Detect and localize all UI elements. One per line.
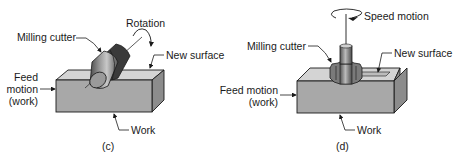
panel-c-new-surface-label: New surface bbox=[166, 49, 224, 61]
panel-d-feed-label-line2: (work) bbox=[240, 96, 278, 108]
panel-c-feed-label-line3: (work) bbox=[4, 95, 38, 107]
panel-c-work-label: Work bbox=[131, 124, 155, 136]
milling-diagram: Milling cutter Rotation New surface Feed… bbox=[0, 0, 458, 161]
panel-d-caption: (d) bbox=[336, 140, 349, 152]
panel-d-milling-cutter-label: Milling cutter bbox=[247, 40, 306, 52]
panel-c-milling-cutter-label: Milling cutter bbox=[17, 31, 76, 43]
panel-d-cutter bbox=[330, 14, 362, 84]
diagram-artwork bbox=[0, 0, 458, 161]
panel-d-speed-motion-label: Speed motion bbox=[364, 10, 429, 22]
panel-c-feed-label-line1: Feed bbox=[8, 71, 38, 83]
panel-d-feed-label-line1: Feed motion bbox=[218, 84, 278, 96]
panel-c-rotation-label: Rotation bbox=[126, 17, 165, 29]
panel-d-new-surface-label: New surface bbox=[394, 47, 452, 59]
panel-c-feed-label-line2: motion bbox=[4, 83, 38, 95]
panel-d-work-label: Work bbox=[357, 124, 381, 136]
panel-c-caption: (c) bbox=[102, 140, 114, 152]
